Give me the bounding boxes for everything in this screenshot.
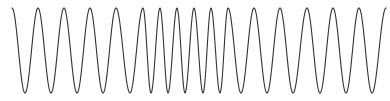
waveform-chart [0,0,390,101]
waveform-line [12,8,386,93]
